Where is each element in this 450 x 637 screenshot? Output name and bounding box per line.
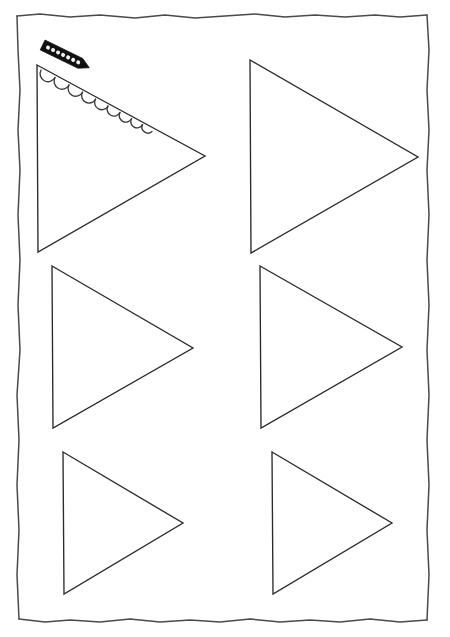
page-background xyxy=(0,0,450,637)
worksheet-page: Pennant Flag Template Sheet xyxy=(0,0,450,637)
worksheet-canvas xyxy=(0,0,450,637)
